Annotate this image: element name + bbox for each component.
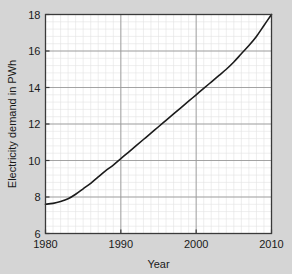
y-tick-label: 12	[28, 118, 40, 130]
y-tick-label: 16	[28, 45, 40, 57]
y-tick-label: 10	[28, 155, 40, 167]
y-tick-label: 18	[28, 9, 40, 21]
x-tick-label: 1990	[109, 238, 133, 250]
x-axis-title: Year	[147, 258, 170, 270]
y-axis-title: Electricity demand in PWh	[6, 60, 18, 188]
y-tick-label: 8	[34, 191, 40, 203]
y-tick-label: 14	[28, 82, 40, 94]
x-tick-label: 2010	[259, 238, 283, 250]
chart-figure: 1980199020002010681012141618 Year Electr…	[0, 0, 292, 274]
line-chart: 1980199020002010681012141618 Year Electr…	[0, 0, 292, 274]
y-tick-label: 6	[34, 228, 40, 240]
x-tick-label: 2000	[184, 238, 208, 250]
